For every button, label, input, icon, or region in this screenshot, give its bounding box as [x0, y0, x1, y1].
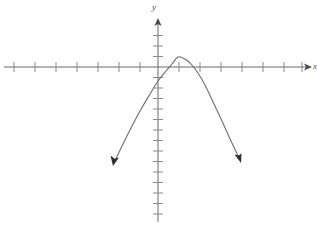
- x-axis-label: x: [313, 62, 317, 71]
- y-axis-label: y: [152, 3, 156, 12]
- coordinate-plane-svg: [0, 0, 317, 231]
- graph-figure: y x: [0, 0, 317, 231]
- parabola-curve: [114, 57, 240, 163]
- curve-left-arrowhead: [111, 156, 120, 167]
